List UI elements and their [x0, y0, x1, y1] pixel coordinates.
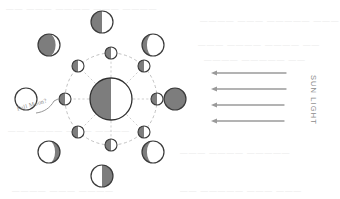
inner-moon-top	[105, 47, 117, 59]
sun-light-arrows-group	[211, 70, 286, 123]
outer-moon-bottom-right	[142, 141, 164, 163]
inner-moon-top-right	[138, 60, 150, 72]
sun-ray-3	[211, 102, 284, 107]
inner-moon-bottom-right	[138, 126, 150, 138]
earth	[90, 78, 132, 120]
inner-moon-bottom-left	[72, 126, 84, 138]
outer-moon-bottom	[91, 165, 113, 187]
inner-moon-left	[59, 93, 71, 105]
sun-ray-4	[211, 118, 284, 123]
outer-moon-top-right	[142, 34, 164, 56]
inner-moon-bottom	[105, 139, 117, 151]
outer-moon-bottom-left	[38, 141, 60, 163]
earth-group	[90, 78, 132, 120]
sun-ray-2	[211, 86, 286, 91]
outer-moon-top-left	[38, 34, 60, 56]
inner-moon-right	[151, 93, 163, 105]
outer-moon-right	[164, 88, 186, 110]
inner-moon-top-left	[72, 60, 84, 72]
sun-ray-1	[211, 70, 286, 75]
sun-light-label: SUN LIGHT	[304, 62, 318, 138]
outer-moon-top	[91, 11, 113, 33]
